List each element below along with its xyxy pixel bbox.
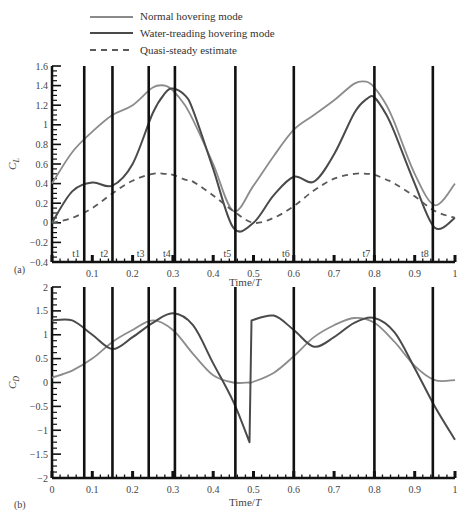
y-tick-label: −1.5 (30, 449, 48, 460)
y-tick-label: 0.8 (36, 139, 49, 150)
y-tick-label: −0.2 (30, 237, 48, 248)
time-marker-label-t1: t1 (72, 248, 80, 259)
panel-label: (a) (14, 264, 25, 276)
x-tick-label: 0 (50, 484, 55, 495)
x-tick-label: 0.8 (368, 484, 381, 495)
x-tick-label: 0.4 (207, 484, 220, 495)
y-tick-label: 0.2 (36, 198, 49, 209)
y-axis-label: CL (6, 158, 21, 170)
x-tick-label: 0.8 (368, 268, 381, 279)
legend-label-water-treading: Water-treading hovering mode (140, 27, 275, 39)
x-tick-label: 0.3 (167, 484, 180, 495)
y-tick-label: 0.5 (36, 353, 49, 364)
time-marker-label-t8: t8 (421, 248, 429, 259)
x-tick-label: 1 (453, 484, 458, 495)
y-tick-label: −0.4 (30, 257, 48, 268)
legend-label-normal: Normal hovering mode (140, 10, 243, 22)
y-tick-label: −2 (37, 473, 48, 484)
y-tick-label: 1.4 (36, 80, 49, 91)
y-tick-label: 1.6 (36, 61, 49, 72)
x-tick-label: 0.6 (288, 484, 301, 495)
legend (90, 17, 133, 50)
y-tick-label: −1 (37, 425, 48, 436)
x-tick-label: 0.2 (126, 484, 139, 495)
y-tick-label: 0.6 (36, 159, 49, 170)
x-tick-label: 0.1 (86, 484, 99, 495)
x-tick-label: 0.5 (247, 484, 260, 495)
figure: −0.4−0.200.20.40.60.811.21.41.60.10.20.3… (0, 0, 471, 521)
time-marker-label-t2: t2 (101, 248, 109, 259)
y-tick-label: 1.2 (36, 100, 49, 111)
y-tick-label: −0.5 (30, 401, 48, 412)
x-tick-label: 0.9 (408, 268, 421, 279)
x-tick-label: 0.7 (328, 268, 341, 279)
y-tick-label: 0.4 (36, 178, 49, 189)
x-axis-label: Time/T (229, 496, 262, 508)
time-marker-label-t7: t7 (363, 248, 371, 259)
panel-label: (b) (14, 499, 26, 511)
time-marker-label-t5: t5 (223, 248, 231, 259)
y-tick-label: 1 (43, 119, 48, 130)
y-tick-label: 0 (43, 217, 48, 228)
time-marker-label-t4: t4 (163, 248, 171, 259)
y-tick-label: 2 (43, 282, 48, 293)
x-tick-label: 0.3 (167, 268, 180, 279)
x-tick-label: 0.6 (288, 268, 301, 279)
x-tick-label: 0.1 (86, 268, 99, 279)
x-tick-label: 0.9 (408, 484, 421, 495)
chart-panel-a: −0.4−0.200.20.40.60.811.21.41.60.10.20.3… (6, 61, 458, 289)
time-marker-label-t3: t3 (137, 248, 145, 259)
time-marker-label-t6: t6 (282, 248, 290, 259)
x-tick-label: 0.4 (207, 268, 220, 279)
y-axis-label: CD (6, 376, 21, 389)
legend-label-quasi-steady: Quasi-steady estimate (140, 44, 237, 56)
y-tick-label: 1 (43, 329, 48, 340)
x-tick-label: 0.7 (328, 484, 341, 495)
x-tick-label: 1 (453, 268, 458, 279)
y-tick-label: 1.5 (36, 305, 49, 316)
x-axis-label: Time/T (229, 276, 262, 288)
chart-panel-b: −2−1.5−1−0.500.511.5200.10.20.30.40.50.6… (6, 282, 458, 512)
y-tick-label: 0 (43, 377, 48, 388)
x-tick-label: 0.2 (126, 268, 139, 279)
